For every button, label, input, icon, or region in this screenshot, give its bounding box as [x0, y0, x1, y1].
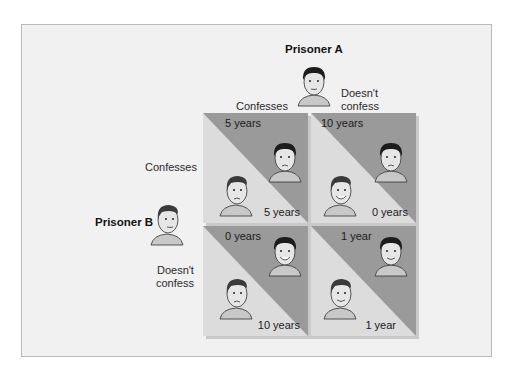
prisoner-a-title: Prisoner A: [285, 43, 343, 56]
prisoner-a-face-icon: [294, 62, 334, 107]
col-header-confesses: Confesses: [236, 100, 288, 113]
payoff-matrix: 5 years 5 years 10 years: [203, 113, 416, 336]
prisoner-a-worried-face-icon: [265, 138, 305, 183]
prisoner-b-worried-face-icon: [217, 171, 257, 217]
prisoner-b-face-icon: [148, 200, 186, 246]
cell-b-silent-a-confesses: 0 years 10 years: [203, 226, 308, 336]
prisoner-a-happy-face-icon: [265, 232, 305, 277]
prisoner-b-smiling-face-icon: [321, 274, 361, 320]
prisoner-a-smiling-face-icon: [371, 232, 411, 277]
prisoner-a-sentence: 1 year: [341, 230, 372, 242]
cell-both-confess: 5 years 5 years: [203, 113, 308, 223]
prisoner-b-sentence: 10 years: [258, 319, 300, 331]
prisoner-b-sentence: 0 years: [372, 206, 408, 218]
prisoner-b-title: Prisoner B: [95, 216, 153, 229]
prisoner-a-worried-face-icon: [371, 138, 411, 183]
row-header-doesnt-confess: Doesn't confess: [156, 264, 194, 290]
prisoner-b-worried-face-icon: [217, 274, 257, 320]
row-header-confesses: Confesses: [145, 161, 197, 174]
cell-b-confesses-a-silent: 10 years 0 years: [311, 113, 416, 223]
prisoner-b-happy-face-icon: [321, 171, 361, 217]
prisoner-b-sentence: 1 year: [365, 319, 396, 331]
prisoner-b-sentence: 5 years: [264, 206, 300, 218]
col-header-doesnt-confess: Doesn't confess: [341, 87, 379, 113]
prisoner-a-sentence: 5 years: [225, 117, 261, 129]
cell-neither-confess: 1 year 1 year: [311, 226, 416, 336]
prisoner-a-sentence: 0 years: [225, 230, 261, 242]
prisoner-a-sentence: 10 years: [321, 117, 363, 129]
